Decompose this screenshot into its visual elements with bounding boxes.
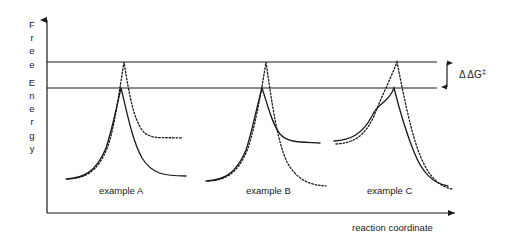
y-axis-letter: g bbox=[24, 129, 40, 142]
y-axis-letter: r bbox=[24, 115, 40, 128]
curve-example-b-solid bbox=[206, 88, 320, 181]
y-axis-letter: e bbox=[24, 58, 40, 71]
y-axis-letter: E bbox=[24, 76, 40, 89]
curve-example-a-solid bbox=[66, 88, 186, 179]
curve-example-a-dotted bbox=[68, 62, 182, 179]
curve-example-b-dotted bbox=[208, 62, 326, 186]
y-axis-letter: r bbox=[24, 31, 40, 44]
caption-example-a: example A bbox=[99, 185, 143, 196]
delta-delta-g-text: Δ ΔG bbox=[459, 69, 482, 80]
y-axis-letter: e bbox=[24, 102, 40, 115]
y-axis-letter: e bbox=[24, 44, 40, 57]
caption-example-c: example C bbox=[367, 185, 412, 196]
caption-example-b: example B bbox=[246, 185, 291, 196]
y-axis-letter: y bbox=[24, 142, 40, 155]
curve-example-c-dotted bbox=[336, 62, 452, 189]
delta-delta-g-label: Δ ΔG‡ bbox=[459, 67, 486, 80]
y-axis-label: F r e e E n e r g y bbox=[24, 18, 40, 155]
y-axis-letter: F bbox=[24, 18, 40, 31]
double-dagger-icon: ‡ bbox=[482, 67, 486, 76]
free-energy-diagram: F r e e E n e r g y reaction coordinate … bbox=[0, 0, 506, 245]
y-axis-letter: n bbox=[24, 89, 40, 102]
plot-canvas bbox=[0, 0, 506, 245]
curve-example-c-solid bbox=[334, 88, 448, 186]
x-axis-label: reaction coordinate bbox=[352, 222, 433, 233]
